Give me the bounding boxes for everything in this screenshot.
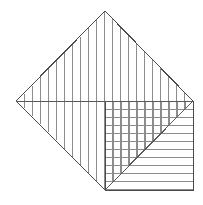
geometric-figure-svg	[0, 0, 203, 205]
square-anti-diagonal	[105, 101, 193, 190]
figure-canvas	[0, 0, 203, 205]
